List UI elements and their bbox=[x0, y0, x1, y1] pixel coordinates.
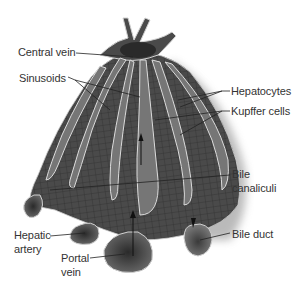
liver-lobule-diagram: Central vein Sinusoids Hepatocytes Kupff… bbox=[0, 0, 303, 287]
label-portal-vein-line2: vein bbox=[61, 266, 81, 279]
label-sinusoids: Sinusoids bbox=[19, 72, 66, 85]
label-kupffer-cells: Kupffer cells bbox=[231, 105, 290, 118]
label-hepatocytes: Hepatocytes bbox=[231, 85, 291, 98]
label-hepatic-artery-line2: artery bbox=[14, 243, 42, 256]
label-hepatic-artery-line1: Hepatic bbox=[14, 229, 51, 242]
central-vein bbox=[100, 18, 176, 60]
label-portal-vein-line1: Portal bbox=[61, 252, 89, 265]
label-central-vein: Central vein bbox=[18, 46, 76, 59]
lobule-illustration bbox=[0, 0, 303, 287]
label-bile-duct: Bile duct bbox=[232, 228, 273, 241]
label-bile-canaliculi-line1: Bile bbox=[232, 168, 250, 181]
label-bile-canaliculi-line2: canaliculi bbox=[232, 182, 276, 195]
